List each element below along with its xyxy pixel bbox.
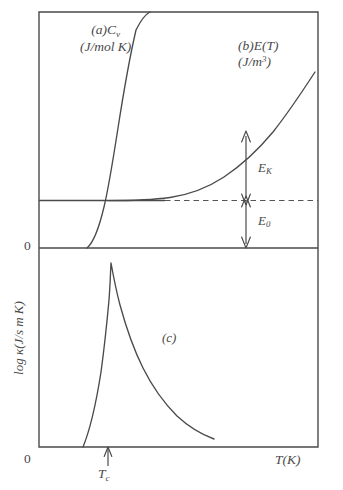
curve-a-symbol: C [107, 22, 116, 37]
e0-double-arrow [242, 196, 251, 248]
curve-b-units-suffix: ) [266, 54, 271, 69]
tc-label: Tc [98, 466, 110, 483]
e0-subscript: 0 [266, 219, 270, 229]
curve-b-units-prefix: (J/m [238, 54, 262, 69]
e0-symbol: E [258, 213, 266, 228]
ek-subscript: K [266, 166, 272, 176]
curve-a-label-line1: (a)Cv [80, 22, 131, 39]
upper-origin-label: 0 [24, 238, 31, 254]
curve-a-label: (a)Cv (J/mol K) [80, 22, 131, 55]
curve-a-label-line2: (J/mol K) [80, 39, 131, 55]
curve-c-conductivity [83, 263, 214, 447]
tc-symbol: T [98, 466, 106, 481]
curve-a-subscript: v [116, 29, 120, 39]
x-axis-label: T(K) [275, 452, 301, 468]
curve-b-label: (b)E(T) (J/m3) [238, 38, 279, 70]
ek-symbol: E [258, 160, 266, 175]
curve-b-label-line2: (J/m3) [238, 54, 279, 70]
figure-canvas [0, 0, 343, 490]
ek-label: EK [258, 160, 272, 177]
curve-b-energy [108, 72, 315, 201]
lower-origin-label: 0 [24, 451, 31, 467]
e0-label: E0 [258, 213, 270, 230]
curve-c-label: (c) [162, 330, 176, 345]
curve-a-prefix: (a) [91, 22, 107, 37]
physics-figure: (a)Cv (J/mol K) (b)E(T) (J/m3) EK E0 (c)… [0, 0, 343, 490]
tc-subscript: c [106, 473, 110, 483]
curve-b-label-line1: (b)E(T) [238, 38, 279, 54]
ek-double-arrow [242, 131, 251, 205]
y-axis-label-lower: log κ(J/s m K) [11, 278, 27, 398]
tc-tick-arrow [104, 447, 112, 466]
